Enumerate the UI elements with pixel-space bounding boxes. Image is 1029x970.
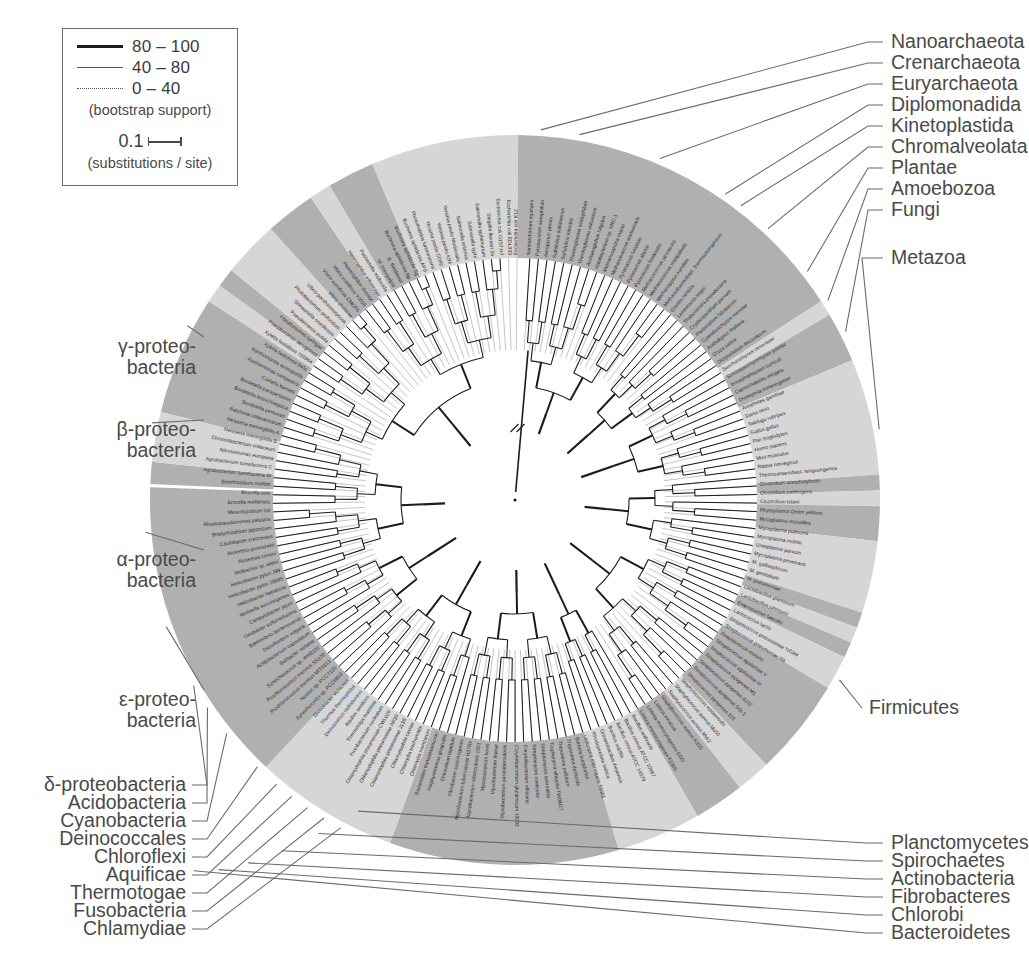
- branch-radial: [526, 258, 530, 320]
- branch-radial: [629, 397, 643, 408]
- scale-value: 0.1: [118, 131, 143, 152]
- branch-radial: [408, 348, 421, 366]
- branch-radial: [562, 328, 569, 349]
- group-label-amoebozoa: Amoebozoa: [891, 178, 995, 199]
- branch-radial: [500, 258, 501, 270]
- branch-radial: [567, 435, 588, 454]
- branch-radial: [282, 436, 317, 446]
- leader-line: [660, 84, 883, 158]
- branch-radial: [670, 366, 717, 397]
- branch-radial: [564, 267, 581, 327]
- group-label-euryarchaeota: Euryarchaeota: [891, 73, 1018, 94]
- branch-radial: [356, 596, 374, 608]
- branch-radial: [426, 595, 442, 616]
- branch-radial: [531, 343, 533, 361]
- branch-radial: [551, 347, 556, 364]
- branch-radial: [441, 270, 450, 299]
- branch-radial: [273, 510, 309, 512]
- leader-line: [807, 168, 883, 272]
- branch-radial: [273, 495, 335, 496]
- branch-radial: [671, 403, 737, 432]
- branch-radial: [388, 601, 401, 613]
- branch-radial: [275, 522, 337, 529]
- branch-radial: [447, 299, 455, 324]
- branch-radial: [570, 378, 583, 401]
- branch-radial: [611, 413, 632, 428]
- branch-radial: [650, 628, 691, 666]
- branch-radial: [358, 519, 376, 521]
- branch-radial: [379, 557, 402, 569]
- legend-row-bootstrap-2: 0 – 40: [63, 78, 237, 99]
- branch-radial: [339, 617, 391, 666]
- branch-radial: [619, 626, 633, 643]
- branch-radial: [273, 502, 335, 503]
- leader-line: [541, 42, 883, 130]
- branch-radial: [308, 588, 370, 625]
- group-label-bacteroidetes: Bacteroidetes: [891, 922, 1010, 943]
- branch-radial: [377, 589, 392, 600]
- branch-radial: [274, 517, 310, 520]
- branch-radial: [394, 290, 409, 316]
- branch-radial: [428, 307, 439, 331]
- branch-radial: [665, 471, 683, 474]
- branch-radial: [461, 322, 467, 343]
- branch-radial: [423, 503, 445, 504]
- leaf-spoke: [491, 259, 500, 351]
- branch-radial: [425, 275, 429, 286]
- branch-radial: [376, 484, 402, 487]
- branch-radial: [659, 618, 702, 653]
- branch-radial: [592, 368, 602, 383]
- taxon-label: Clostridium tetani: [760, 498, 799, 505]
- branch-radial: [585, 655, 615, 721]
- branch-radial: [273, 486, 335, 490]
- branch-radial: [576, 610, 589, 633]
- leader-line: [741, 126, 883, 206]
- branch-radial: [553, 676, 566, 737]
- branch-radial: [695, 486, 757, 490]
- branch-radial: [314, 366, 339, 383]
- branch-radial: [337, 564, 357, 572]
- leader-line: [846, 210, 883, 332]
- branch-radial: [665, 610, 686, 625]
- branch-radial: [357, 494, 375, 495]
- branch-radial: [345, 632, 384, 672]
- branch-radial: [333, 392, 355, 405]
- group-label-diplomonadida: Diplomonadida: [891, 94, 1021, 115]
- branch-radial: [687, 552, 746, 570]
- branch-radial: [640, 606, 657, 620]
- leaf-spoke: [425, 275, 459, 360]
- group-label-chlamydiae: Chlamydiae: [83, 918, 186, 939]
- branch-radial: [611, 376, 623, 390]
- branch-radial: [314, 433, 339, 441]
- branch-radial: [456, 675, 471, 735]
- legend-row-bootstrap-0: 80 – 100: [63, 36, 237, 57]
- branch-radial: [507, 640, 508, 658]
- branch-radial: [378, 523, 403, 528]
- branch-radial: [623, 335, 639, 356]
- branch-radial: [387, 331, 403, 352]
- legend-row-bootstrap-1: 40 – 80: [63, 57, 237, 78]
- branch-radial: [464, 676, 477, 737]
- branch-radial: [491, 259, 492, 271]
- branch-radial: [674, 433, 695, 441]
- branch-radial: [545, 563, 559, 594]
- branch-radial: [532, 259, 538, 321]
- branch-radial: [559, 674, 574, 734]
- legend-line-thin-icon: [77, 67, 123, 68]
- branch-radial: [539, 413, 546, 434]
- branch-radial: [431, 674, 450, 727]
- branch-radial: [673, 502, 757, 503]
- branch-radial: [351, 637, 389, 678]
- branch-radial: [533, 613, 537, 639]
- taxon-label: Brucella suis: [241, 489, 270, 496]
- branch-radial: [366, 432, 382, 439]
- branch-radial: [489, 679, 496, 741]
- branch-radial: [474, 654, 479, 675]
- branch-radial: [456, 585, 467, 604]
- branch-radial: [485, 637, 488, 655]
- branch-radial: [540, 678, 549, 739]
- branch-radial: [650, 593, 668, 606]
- branch-radial: [643, 635, 661, 654]
- branch-radial: [574, 357, 582, 373]
- branch-radial: [481, 678, 490, 739]
